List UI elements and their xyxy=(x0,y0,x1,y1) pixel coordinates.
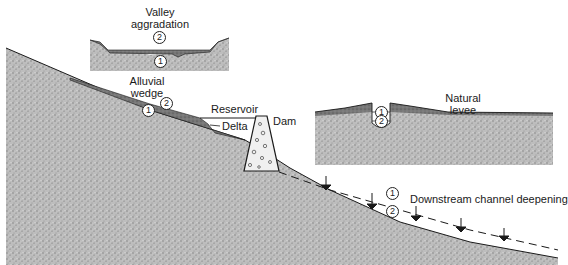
delta-label: Delta xyxy=(222,120,248,132)
marker-downstream-1: 1 xyxy=(386,187,399,200)
dam-label: Dam xyxy=(273,115,296,127)
marker-valley-2: 2 xyxy=(153,31,166,44)
marker-valley-1: 1 xyxy=(154,55,167,68)
valley-aggradation-label: Valley aggradation xyxy=(128,6,192,30)
reservoir-label: Reservoir xyxy=(211,103,258,115)
marker-wedge-1: 1 xyxy=(142,104,155,117)
delta-pointer xyxy=(210,125,220,126)
marker-downstream-2: 2 xyxy=(386,205,399,218)
marker-levee-2: 2 xyxy=(375,115,388,128)
natural-levee-label: Natural levee xyxy=(440,92,486,116)
marker-wedge-2: 2 xyxy=(160,97,173,110)
alluvial-wedge-label: Alluvial wedge xyxy=(125,75,169,99)
downstream-deepening-label: Downstream channel deepening xyxy=(410,193,568,205)
